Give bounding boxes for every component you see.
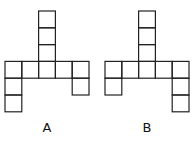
net-cell [155, 61, 172, 78]
net-cell [22, 61, 39, 78]
net-cell [39, 11, 56, 28]
net-cell [139, 45, 156, 62]
net-cell [139, 28, 156, 45]
net-cell [5, 61, 22, 78]
net-cell [172, 61, 189, 78]
net-cell [172, 78, 189, 95]
net-cell [172, 95, 189, 112]
net-cell [39, 28, 56, 45]
net-cell [55, 61, 72, 78]
net-cell [122, 61, 139, 78]
net-cell [5, 78, 22, 95]
net-cell [139, 11, 156, 28]
net-cell [72, 78, 89, 95]
net-cell [139, 61, 156, 78]
net-figure-a [5, 11, 89, 112]
net-cell [39, 45, 56, 62]
net-figure-b [105, 11, 189, 112]
net-diagrams [0, 0, 194, 141]
net-cell [72, 61, 89, 78]
net-cell [39, 61, 56, 78]
net-cell [5, 95, 22, 112]
figure-label-b: B [137, 120, 157, 135]
net-cell [105, 78, 122, 95]
net-cell [105, 61, 122, 78]
figure-label-a: A [37, 120, 57, 135]
